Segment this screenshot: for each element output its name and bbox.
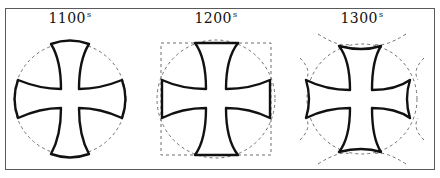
crosses-drawing	[0, 0, 440, 178]
cross-1300s	[300, 34, 424, 164]
cross-1100s	[14, 41, 126, 158]
cross-1200s	[157, 40, 275, 158]
